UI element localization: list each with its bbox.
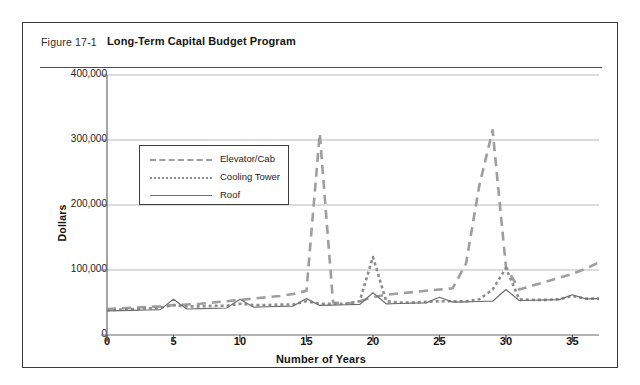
legend-item-roof: Roof: [140, 186, 288, 206]
chart-legend: Elevator/Cab Cooling Tower Roof: [139, 145, 289, 205]
figure-title: Long-Term Capital Budget Program: [107, 35, 296, 47]
chart-series-line: [107, 257, 599, 310]
figure-header: Figure 17-1 Long-Term Capital Budget Pro…: [23, 23, 617, 67]
chart-canvas: [23, 67, 619, 368]
figure-frame: Figure 17-1 Long-Term Capital Budget Pro…: [22, 22, 618, 368]
chart-series-line: [107, 290, 599, 311]
chart-plot-area: Dollars Number of Years 0100,000200,0003…: [23, 67, 619, 368]
legend-swatch-dashed-icon: [150, 159, 212, 161]
legend-swatch-dotted-icon: [150, 177, 212, 179]
figure-number: Figure 17-1: [41, 36, 97, 48]
legend-swatch-solid-icon: [150, 195, 212, 196]
legend-label-cooling-tower: Cooling Tower: [220, 171, 280, 182]
legend-label-elevator-cab: Elevator/Cab: [220, 153, 275, 164]
legend-item-elevator-cab: Elevator/Cab: [140, 150, 288, 170]
legend-item-cooling-tower: Cooling Tower: [140, 168, 288, 188]
legend-label-roof: Roof: [220, 189, 240, 200]
